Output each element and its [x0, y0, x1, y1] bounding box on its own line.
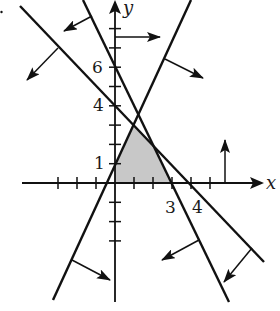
- inequality-graph: y x 1 4 6 3 4: [0, 0, 280, 311]
- line-b-segment: [83, 0, 229, 302]
- x-tick-label-4: 4: [192, 197, 203, 217]
- shade-direction-arrow-icon: [165, 59, 203, 78]
- y-axis-label: y: [122, 0, 134, 18]
- shade-direction-arrow-icon: [64, 16, 92, 31]
- x-axis-label: x: [266, 172, 276, 193]
- shade-direction-arrow-icon: [224, 248, 252, 282]
- shade-direction-arrow-icon: [72, 260, 110, 280]
- y-tick-label-1: 1: [94, 153, 105, 173]
- x-tick-label-3: 3: [165, 197, 176, 217]
- y-axis: [109, 0, 121, 302]
- shade-direction-arrow-icon: [27, 48, 58, 80]
- stray-mark: [0, 11, 2, 13]
- shade-direction-arrow-icon: [162, 240, 199, 260]
- line-c-segment: [20, 6, 264, 262]
- y-tick-label-4: 4: [93, 95, 104, 115]
- y-tick-label-6: 6: [92, 57, 103, 77]
